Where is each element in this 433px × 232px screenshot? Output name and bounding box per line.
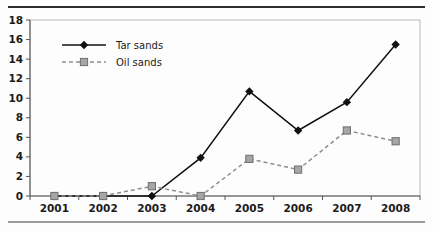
y-tick-label: 18 xyxy=(8,14,23,26)
x-tick-label: 2004 xyxy=(186,202,215,214)
x-tick-label: 2007 xyxy=(332,202,361,214)
legend-label-tar-sands: Tar sands xyxy=(115,40,163,51)
x-axis: 20012002200320042005200620072008 xyxy=(30,196,420,214)
legend-label-oil-sands: Oil sands xyxy=(116,57,162,68)
data-point-marker-diamond xyxy=(80,41,88,49)
y-tick-label: 4 xyxy=(16,150,23,162)
series-line-oil-sands xyxy=(54,130,395,196)
data-point-marker-square xyxy=(295,166,302,173)
y-axis: 024681012141618 xyxy=(8,14,30,202)
y-tick-label: 16 xyxy=(8,33,23,45)
y-tick-label: 14 xyxy=(8,53,23,65)
data-point-marker-square xyxy=(246,155,253,162)
data-point-marker-square xyxy=(392,138,399,145)
y-tick-label: 12 xyxy=(8,72,23,84)
chart-figure: 024681012141618 200120022003200420052006… xyxy=(0,0,433,232)
x-tick-label: 2003 xyxy=(137,202,166,214)
chart-legend: Tar sandsOil sands xyxy=(62,40,163,68)
data-point-marker-square xyxy=(51,192,58,199)
y-tick-label: 8 xyxy=(16,111,23,123)
y-tick-label: 2 xyxy=(16,170,23,182)
plot-frame xyxy=(30,20,420,196)
line-chart-plot: 024681012141618 200120022003200420052006… xyxy=(0,0,433,232)
data-point-marker-square xyxy=(343,127,350,134)
data-point-marker-square xyxy=(148,183,155,190)
x-tick-label: 2008 xyxy=(381,202,410,214)
y-tick-label: 6 xyxy=(16,131,23,143)
x-tick-label: 2006 xyxy=(284,202,313,214)
y-tick-label: 0 xyxy=(16,190,23,202)
series-layer xyxy=(50,40,400,200)
x-tick-label: 2005 xyxy=(235,202,264,214)
data-point-marker-square xyxy=(80,58,87,65)
y-tick-label: 10 xyxy=(8,92,23,104)
x-tick-label: 2002 xyxy=(89,202,118,214)
series-line-tar-sands xyxy=(54,44,395,196)
data-point-marker-square xyxy=(100,192,107,199)
data-point-marker-square xyxy=(197,192,204,199)
x-tick-label: 2001 xyxy=(40,202,69,214)
